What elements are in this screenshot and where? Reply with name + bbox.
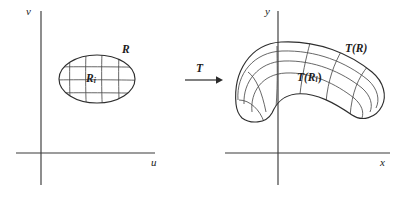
arrow-head-icon <box>216 76 223 84</box>
subregion-TRi-suffix: ) <box>318 71 322 83</box>
region-R-label: R <box>122 44 130 56</box>
grid-line-v3 <box>102 54 103 104</box>
grid-line-h2 <box>57 80 138 81</box>
subregion-TRi-label: T(Ri) <box>297 72 321 84</box>
uv-axes-group <box>16 11 155 185</box>
xy-axes-group <box>225 11 390 185</box>
grid-curve-t4 <box>300 43 310 94</box>
v-axis-label: v <box>26 6 31 17</box>
region-TR-label: T(R) <box>345 43 367 55</box>
subregion-Ri-base: R <box>86 72 94 84</box>
figure-container: v u R Ri T y x T(R) T(Ri) <box>0 0 405 198</box>
grid-line-h3 <box>57 93 138 94</box>
region-R-group <box>57 54 138 104</box>
transformation-arrow-group <box>185 76 223 84</box>
grid-line-v4 <box>119 54 120 104</box>
grid-curve-t3 <box>276 46 277 108</box>
grid-line-h1 <box>57 67 138 68</box>
subregion-Ri-subscript: i <box>94 76 96 85</box>
u-axis-label: u <box>151 157 157 168</box>
subregion-TRi-prefix: T(R <box>297 71 316 83</box>
subregion-Ri-label: Ri <box>86 73 96 85</box>
region-R-grid <box>57 54 138 104</box>
transformation-arrow-label: T <box>196 63 203 75</box>
region-R-outline <box>59 55 135 103</box>
x-axis-label: x <box>380 157 385 168</box>
figure-canvas <box>0 0 405 198</box>
y-axis-label: y <box>265 6 270 17</box>
